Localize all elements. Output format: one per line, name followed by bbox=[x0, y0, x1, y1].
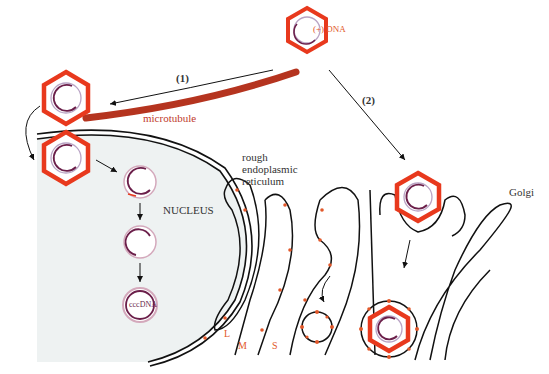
label-golgi: Golgi bbox=[509, 186, 534, 198]
label-path-2: (2) bbox=[362, 94, 375, 106]
arrow-vesicle bbox=[322, 276, 330, 302]
capsid-at-pore-nucleus bbox=[44, 132, 88, 184]
hbv-lifecycle-diagram bbox=[0, 0, 549, 374]
arrow-path-2 bbox=[329, 70, 405, 160]
rcdna-repaired bbox=[124, 226, 156, 258]
label-rer-line3: reticulum bbox=[242, 175, 284, 187]
label-protein-m: M bbox=[238, 340, 247, 351]
capsid-budding bbox=[397, 173, 439, 221]
label-cccdna: cccDNA bbox=[129, 300, 157, 309]
label-plus-dna: (+) DNA bbox=[313, 24, 346, 34]
label-rer-line1: rough bbox=[242, 151, 268, 163]
subviral-particle bbox=[300, 310, 334, 344]
label-path-1: (1) bbox=[176, 72, 189, 84]
label-protein-l: L bbox=[224, 328, 230, 339]
label-microtubule: microtubule bbox=[143, 112, 196, 124]
label-protein-s: S bbox=[272, 340, 278, 351]
label-rer-line2: endoplasmic bbox=[242, 163, 298, 175]
rcdna-relaxed bbox=[124, 166, 156, 198]
arrow-secretion bbox=[404, 240, 410, 268]
label-nucleus: NUCLEUS bbox=[163, 204, 214, 216]
capsid-at-pore-cytoplasm bbox=[44, 72, 88, 124]
enveloped-virion bbox=[359, 299, 419, 359]
